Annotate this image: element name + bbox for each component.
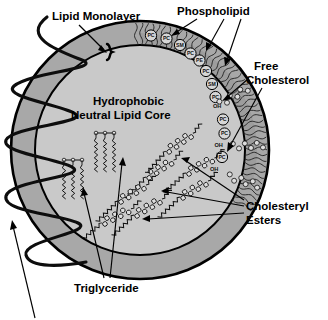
label-free-cholesterol-line1: Free — [254, 60, 278, 72]
label-cholesteryl-esters-line2: Esters — [246, 214, 281, 226]
headgroup-label: SM — [176, 42, 184, 48]
label-free-cholesterol-line2: Cholesterol — [246, 74, 309, 86]
label-core-line2: Neutral Lipid Core — [71, 109, 171, 121]
label-core-line1: Hydrophobic — [93, 95, 165, 107]
label-phospholipid: Phospholipid — [177, 5, 250, 17]
headgroup-label: PC — [219, 116, 226, 122]
cholesterol-oh-label: OH — [210, 166, 218, 172]
cholesterol-oh-label: OH — [215, 142, 223, 148]
headgroup-pc: PC — [219, 128, 230, 139]
headgroup-sm: SM — [174, 39, 185, 50]
headgroup-label: SM — [208, 81, 216, 87]
headgroup-label: PC — [147, 32, 154, 38]
headgroup-label: PC — [221, 130, 228, 136]
headgroup-pe: PE — [194, 55, 205, 66]
lipoprotein-diagram: PCPCSMPCPEPCSMPCPCPCPC OHOHOH — [0, 0, 328, 320]
headgroup-pc: PC — [200, 65, 211, 76]
label-lipid-monolayer: Lipid Monolayer — [52, 10, 141, 22]
headgroup-label: PC — [163, 35, 170, 41]
headgroup-pc: PC — [145, 30, 156, 41]
arrow-apolipoprotein — [10, 220, 35, 318]
headgroup-label: PE — [196, 57, 203, 63]
headgroup-label: PC — [218, 154, 225, 160]
headgroup-label: PC — [187, 50, 194, 56]
headgroup-sm: SM — [206, 78, 217, 89]
label-triglyceride: Triglyceride — [74, 282, 139, 294]
neutral-lipid-core — [35, 45, 245, 255]
headgroup-pc: PC — [217, 114, 228, 125]
headgroup-label: PC — [202, 68, 209, 74]
cholesterol-oh-label: OH — [213, 103, 221, 109]
label-cholesteryl-esters-line1: Cholesteryl — [246, 200, 309, 212]
headgroup-pc: PC — [161, 33, 172, 44]
figure-canvas: PCPCSMPCPEPCSMPCPCPCPC OHOHOH — [0, 0, 328, 320]
